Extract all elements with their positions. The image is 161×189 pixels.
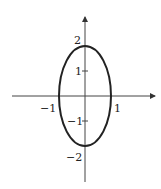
x-label-neg1: −1 [40, 102, 56, 115]
y-label-1: 1 [75, 65, 82, 78]
x-label-1: 1 [114, 102, 121, 115]
y-label-neg2: −2 [66, 151, 82, 164]
y-label-neg1: −1 [67, 115, 83, 128]
ellipse-diagram: 2 1 −1 −2 −1 1 [0, 0, 161, 189]
y-label-2: 2 [74, 34, 81, 47]
